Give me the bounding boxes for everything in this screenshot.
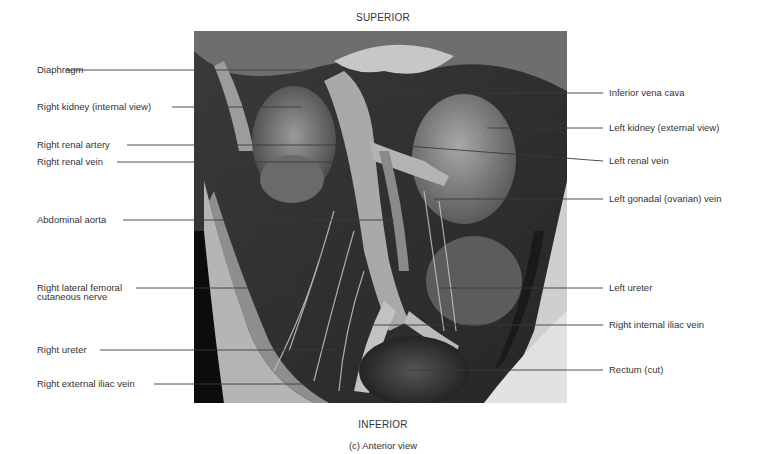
label-diaphragm: Diaphragm: [37, 65, 83, 75]
label-inferior-vena-cava: Inferior vena cava: [609, 88, 685, 98]
label-right-kidney: Right kidney (internal view): [37, 102, 151, 112]
label-left-renal-vein: Left renal vein: [609, 156, 669, 166]
label-right-ureter: Right ureter: [37, 345, 87, 355]
label-right-lateral-femoral-nerve: Right lateral femoral cutaneous nerve: [37, 283, 122, 301]
label-abdominal-aorta: Abdominal aorta: [37, 215, 106, 225]
label-left-kidney: Left kidney (external view): [609, 123, 719, 133]
label-left-gonadal-vein: Left gonadal (ovarian) vein: [609, 194, 722, 204]
label-right-external-iliac-vein: Right external iliac vein: [37, 379, 135, 389]
label-rectum: Rectum (cut): [609, 365, 663, 375]
label-left-ureter: Left ureter: [609, 283, 652, 293]
orientation-inferior: INFERIOR: [283, 419, 483, 430]
label-right-lateral-femoral-nerve-line2: cutaneous nerve: [37, 292, 122, 301]
label-right-renal-vein: Right renal vein: [37, 157, 103, 167]
label-right-internal-iliac-vein: Right internal iliac vein: [609, 320, 704, 330]
label-right-renal-artery: Right renal artery: [37, 140, 110, 150]
figure-caption: (c) Anterior view: [283, 440, 483, 451]
